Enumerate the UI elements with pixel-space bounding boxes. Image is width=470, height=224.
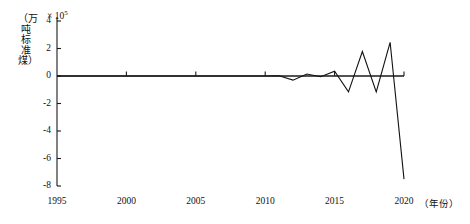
data-series-group (57, 42, 404, 179)
axes-group (57, 17, 404, 186)
chart-container: （万吨标准煤） × 105 420-2-4-6-8 19952000200520… (0, 0, 470, 224)
plot-area (0, 0, 470, 224)
data-line (57, 42, 404, 179)
